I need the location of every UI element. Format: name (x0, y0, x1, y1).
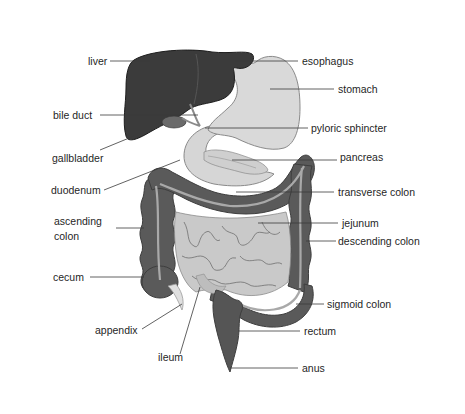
small-intestine-group (175, 212, 291, 296)
label-appendix: appendix (95, 324, 138, 336)
label-ileum: ileum (158, 351, 183, 363)
label-esophagus: esophagus (302, 55, 353, 67)
label-cecum: cecum (53, 271, 84, 283)
label-pancreas: pancreas (340, 151, 383, 163)
label-anus: anus (302, 362, 325, 374)
label-sigmoid-colon: sigmoid colon (327, 298, 391, 310)
digestive-system-diagram: liver esophagus stomach bile duct pylori… (0, 0, 465, 414)
label-transverse-colon: transverse colon (338, 186, 415, 198)
label-descending-colon: descending colon (338, 235, 420, 247)
label-ascending-colon-line1: ascending (54, 215, 102, 227)
label-liver: liver (88, 55, 108, 67)
label-bile-duct: bile duct (53, 109, 92, 121)
label-gallbladder: gallbladder (52, 152, 104, 164)
label-duodenum: duodenum (51, 184, 101, 196)
label-ascending-colon-line2: colon (54, 230, 79, 242)
label-rectum: rectum (304, 325, 336, 337)
label-pyloric-sphincter: pyloric sphincter (311, 122, 387, 134)
label-jejunum: jejunum (341, 217, 379, 229)
label-stomach: stomach (338, 83, 378, 95)
